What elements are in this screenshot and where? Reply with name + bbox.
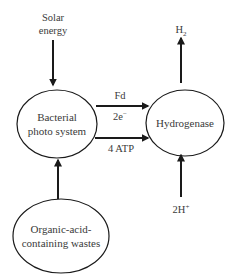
hydrogen-production-diagram: Solar energy H2 Bacterial photo system H… bbox=[0, 0, 234, 278]
solar-energy-line1: Solar bbox=[23, 11, 83, 24]
organic-wastes-label: Organic-acid- containing wastes bbox=[13, 222, 109, 250]
hydrogenase-label: Hydrogenase bbox=[146, 116, 224, 130]
protons-superscript: + bbox=[185, 203, 189, 211]
h2-subscript: 2 bbox=[183, 30, 187, 38]
electron-superscript: − bbox=[123, 110, 127, 118]
fd-label: Fd bbox=[105, 89, 135, 102]
solar-energy-line2: energy bbox=[23, 24, 83, 37]
solar-energy-label: Solar energy bbox=[23, 11, 83, 37]
organic-line1: Organic-acid- bbox=[13, 222, 109, 236]
bacterial-line1: Bacterial bbox=[17, 110, 97, 124]
protons-main: 2H bbox=[173, 204, 186, 215]
h2-label: H2 bbox=[161, 23, 201, 36]
h2-main: H bbox=[175, 24, 183, 35]
electron-label: 2e− bbox=[104, 110, 136, 123]
protons-label: 2H+ bbox=[161, 203, 201, 216]
organic-line2: containing wastes bbox=[13, 236, 109, 250]
electron-main: 2e bbox=[113, 111, 123, 122]
bacterial-photo-system-label: Bacterial photo system bbox=[17, 110, 97, 138]
bacterial-line2: photo system bbox=[17, 124, 97, 138]
atp-label: 4 ATP bbox=[100, 142, 142, 155]
